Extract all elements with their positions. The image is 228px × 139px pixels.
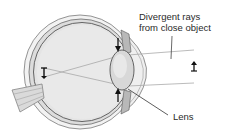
divergent-rays-label-line1: Divergent rays	[139, 11, 211, 22]
divergent-rays-label: Divergent rays from close object	[139, 11, 211, 33]
rays-leader-line	[171, 36, 172, 59]
lens-highlight	[113, 54, 127, 78]
lens-label: Lens	[173, 111, 194, 122]
object-arrow-icon	[191, 61, 197, 71]
eye-diagram: Divergent rays from close object Lens	[0, 0, 228, 139]
divergent-rays-label-line2: from close object	[139, 22, 211, 33]
